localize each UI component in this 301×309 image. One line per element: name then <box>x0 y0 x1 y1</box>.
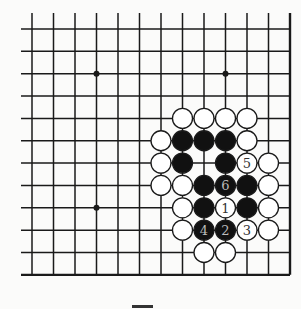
white-stone <box>259 220 279 240</box>
black-stone <box>194 175 214 195</box>
move-number: 6 <box>221 178 229 193</box>
white-stone <box>237 108 257 128</box>
white-stone-3: 3 <box>237 220 257 240</box>
white-stone <box>151 153 171 173</box>
black-stone <box>237 198 257 218</box>
move-number: 3 <box>243 223 251 238</box>
star-point <box>223 71 229 77</box>
white-stone <box>259 175 279 195</box>
white-stone <box>173 198 193 218</box>
move-number: 4 <box>200 223 208 238</box>
white-stone-5: 5 <box>237 153 257 173</box>
white-stone <box>259 198 279 218</box>
white-stone <box>194 108 214 128</box>
black-stone <box>237 175 257 195</box>
move-number: 2 <box>221 223 229 238</box>
black-stone <box>173 131 193 151</box>
black-stone-4: 4 <box>194 220 214 240</box>
white-stone <box>194 243 214 263</box>
white-stone <box>237 131 257 151</box>
star-point <box>94 205 100 211</box>
move-number: 5 <box>243 156 251 171</box>
move-number: 1 <box>221 201 229 216</box>
black-stone <box>216 153 236 173</box>
white-stone-1: 1 <box>216 198 236 218</box>
caption-mark <box>132 305 153 308</box>
white-stone <box>216 243 236 263</box>
black-stone <box>216 131 236 151</box>
black-stone-2: 2 <box>216 220 236 240</box>
white-stone <box>151 131 171 151</box>
star-point <box>94 71 100 77</box>
white-stone <box>216 108 236 128</box>
black-stone <box>194 198 214 218</box>
white-stone <box>259 153 279 173</box>
white-stone <box>173 220 193 240</box>
black-stone <box>173 153 193 173</box>
white-stone <box>151 175 171 195</box>
white-stone <box>173 175 193 195</box>
black-stone <box>194 131 214 151</box>
go-board: 561423 <box>0 0 301 309</box>
white-stone <box>173 108 193 128</box>
black-stone-6: 6 <box>216 175 236 195</box>
